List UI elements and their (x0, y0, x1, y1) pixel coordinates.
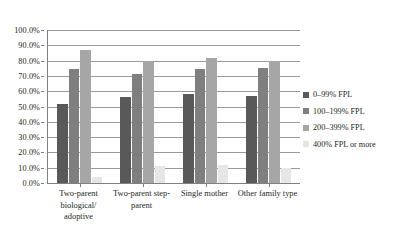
x-axis-tick (206, 183, 207, 187)
bar (57, 104, 68, 183)
legend-label: 0–99% FPL (313, 90, 352, 99)
y-axis-label: 100.0% (14, 26, 40, 35)
bar-group (237, 30, 300, 183)
bar (92, 177, 103, 183)
legend-item: 400% FPL or more (303, 140, 404, 149)
bar (80, 50, 91, 183)
y-axis-tick (41, 168, 45, 169)
bar (258, 68, 269, 184)
bar (183, 94, 194, 184)
bar-group (174, 30, 237, 183)
y-axis-tick (41, 30, 45, 31)
y-axis-tick (41, 61, 45, 62)
legend-swatch-icon (303, 108, 309, 114)
bar (195, 69, 206, 183)
y-axis-label: 90.0% (18, 41, 40, 50)
legend-swatch-icon (303, 92, 309, 98)
y-axis-tick (41, 183, 45, 184)
y-axis-label: 80.0% (18, 56, 40, 65)
bar (132, 74, 143, 183)
bar (155, 166, 166, 183)
bar (120, 97, 131, 183)
bar (218, 165, 229, 183)
y-axis: 100.0% 90.0% 80.0% 70.0% 60.0% 50.0% 40.… (0, 30, 44, 183)
y-axis-label: 30.0% (18, 133, 40, 142)
x-axis-tick (80, 183, 81, 187)
y-axis-tick (41, 107, 45, 108)
x-axis-tick (269, 183, 270, 187)
y-axis-tick (41, 122, 45, 123)
bar-group (111, 30, 174, 183)
bar-group (48, 30, 111, 183)
bar (281, 168, 292, 183)
x-axis-label: Two-parent biological/ adoptive (47, 188, 110, 223)
x-axis-label: Two-parent step-parent (110, 188, 173, 223)
y-axis-label: 20.0% (18, 148, 40, 157)
x-axis-label: Single mother (173, 188, 236, 223)
bar (246, 96, 257, 183)
x-axis-tick (143, 183, 144, 187)
y-axis-label: 50.0% (18, 102, 40, 111)
y-axis-label: 60.0% (18, 87, 40, 96)
legend-label: 200–399% FPL (313, 123, 365, 132)
legend-label: 100–199% FPL (313, 107, 365, 116)
bar-groups (48, 30, 300, 183)
bar (69, 69, 80, 183)
x-axis-label: Other family type (236, 188, 299, 223)
x-axis-labels: Two-parent biological/ adoptiveTwo-paren… (47, 188, 299, 223)
y-axis-label: 0.0% (23, 179, 40, 188)
plot-area (47, 30, 300, 184)
bar (143, 61, 154, 183)
legend-label: 400% FPL or more (313, 140, 376, 149)
bar-chart: 100.0% 90.0% 80.0% 70.0% 60.0% 50.0% 40.… (0, 0, 404, 242)
bar (206, 58, 217, 183)
y-axis-label: 70.0% (18, 71, 40, 80)
y-axis-tick (41, 45, 45, 46)
legend-swatch-icon (303, 125, 309, 131)
y-axis-tick (41, 137, 45, 138)
bar (269, 61, 280, 183)
y-axis-label: 40.0% (18, 117, 40, 126)
y-axis-tick (41, 152, 45, 153)
y-axis-label: 10.0% (18, 163, 40, 172)
y-axis-tick (41, 91, 45, 92)
legend: 0–99% FPL100–199% FPL200–399% FPL400% FP… (303, 90, 404, 156)
legend-item: 100–199% FPL (303, 107, 404, 116)
y-axis-tick (41, 76, 45, 77)
legend-item: 0–99% FPL (303, 90, 404, 99)
legend-swatch-icon (303, 141, 309, 147)
legend-item: 200–399% FPL (303, 123, 404, 132)
